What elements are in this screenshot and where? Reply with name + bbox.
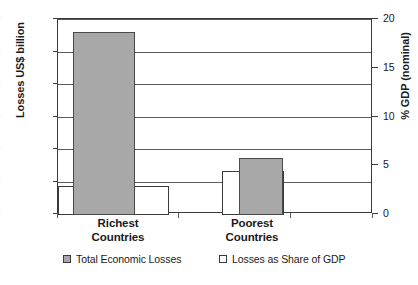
legend-label-losses-share-gdp: Losses as Share of GDP [232,253,345,265]
legend-item-losses-share-gdp: Losses as Share of GDP [219,253,345,265]
y-axis-right-mark-10 [372,116,378,117]
bar-losses-richest [73,32,135,215]
y-axis-right-mark-15 [372,67,378,68]
y-axis-left-mark-500 [53,51,58,52]
y-axis-right-tick-20: 20 [383,13,413,23]
x-axis-tick-3 [372,213,373,218]
x-axis-category-poorest-line2: Countries [177,231,327,245]
y-axis-left-title: Losses US$ billion [14,0,26,150]
y-axis-right-tick-15: 15 [383,62,413,72]
chart-container: Losses US$ billion % GDP (nominal) 600 5… [0,0,418,285]
y-axis-right-tick-5: 5 [383,159,413,169]
y-axis-left-mark-300 [53,116,58,117]
x-axis-category-poorest-line1: Poorest [177,217,327,231]
x-axis-category-richest-line2: Countries [43,231,193,245]
y-axis-right-mark-20 [372,18,378,19]
x-axis-category-poorest: Poorest Countries [177,217,327,244]
y-axis-right-tick-0: 0 [383,208,413,218]
plot-area [57,18,372,213]
legend-swatch-gray-icon [63,255,71,263]
y-axis-left-mark-200 [53,148,58,149]
y-axis-left-mark-600 [53,18,58,19]
legend-label-total-economic-losses: Total Economic Losses [76,253,181,265]
y-axis-right-mark-5 [372,164,378,165]
x-axis-category-richest: Richest Countries [43,217,193,244]
y-axis-left-mark-100 [53,181,58,182]
bar-losses-poorest [239,158,283,215]
gridline-600 [58,19,371,20]
y-axis-right-tick-10: 10 [383,111,413,121]
legend-swatch-white-icon [219,255,227,263]
y-axis-left-mark-400 [53,83,58,84]
legend-item-total-economic-losses: Total Economic Losses [63,253,181,265]
x-axis-category-richest-line1: Richest [43,217,193,231]
y-axis-right-title: % GDP (nominal) [399,1,411,151]
